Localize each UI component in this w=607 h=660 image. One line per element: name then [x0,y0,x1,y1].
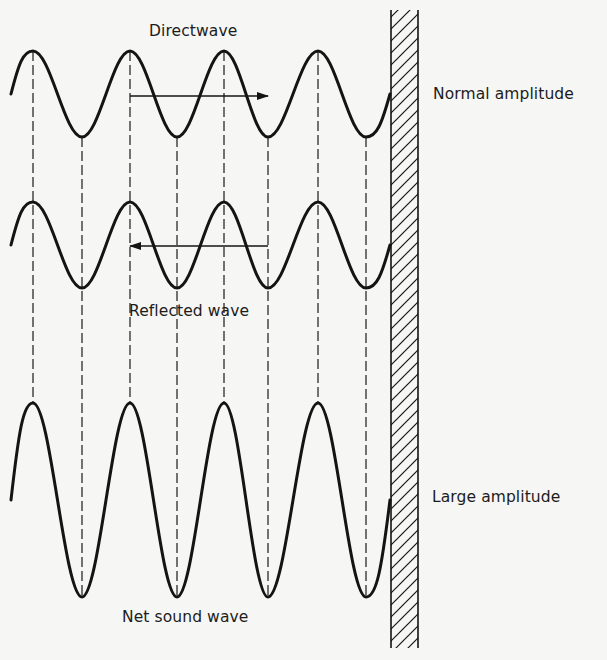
net-sound-wave-curve [11,403,390,597]
direct-wave-curve [11,51,390,137]
direct-wave-label: Directwave [149,22,237,40]
normal-amplitude-label: Normal amplitude [433,85,574,103]
net-sound-wave-label: Net sound wave [122,608,248,626]
reflected-wave-curve [11,202,390,288]
large-amplitude-label: Large amplitude [432,488,560,506]
reflected-wave-label: Reflected wave [129,302,249,320]
reflecting-wall [391,10,418,648]
